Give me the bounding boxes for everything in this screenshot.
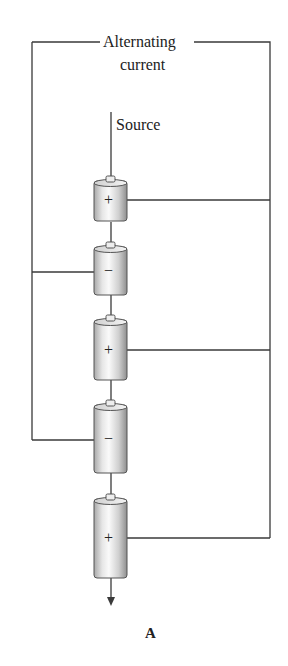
cell-5-sign: + — [104, 529, 113, 547]
cell-1-sign: + — [104, 191, 113, 209]
source-label: Source — [116, 116, 160, 134]
alternating-current-diagram — [0, 0, 288, 666]
left-wire — [32, 42, 100, 440]
title-line-2: current — [120, 56, 165, 74]
cell-3-sign: + — [104, 341, 113, 359]
cell-4-sign: − — [104, 430, 113, 448]
title-line-1: Alternating — [100, 33, 179, 51]
cell-2-sign: − — [104, 262, 113, 280]
right-wire — [194, 42, 270, 538]
panel-label: A — [145, 624, 156, 642]
arrow-down-icon — [107, 597, 115, 606]
